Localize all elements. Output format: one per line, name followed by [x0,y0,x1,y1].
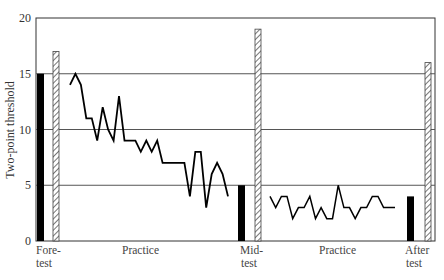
label-after-test-2: test [406,257,423,269]
hatched-bar [425,63,431,241]
practice-1-line [70,74,228,208]
label-mid-test-2: test [241,257,258,269]
label-practice-1: Practice [122,244,159,256]
label-mid-test-1: Mid- [240,244,263,256]
label-after-test-1: After [405,244,429,256]
practice-2-line [270,185,395,218]
y-tick-label: 15 [19,67,31,81]
y-tick-label: 5 [25,178,31,192]
y-axis-title: Two-point threshold [3,81,17,178]
label-fore-test-2: test [36,257,53,269]
y-tick-label: 0 [25,234,31,248]
y-axis-ticks: 05101520 [19,11,31,248]
hatched-bar [255,29,261,241]
solid-bar [37,74,44,241]
line-chart: 05101520 Two-point threshold Fore- test … [0,0,444,280]
hatched-bar [53,51,59,241]
label-fore-test-1: Fore- [36,244,61,256]
y-tick-label: 20 [19,11,31,25]
gridlines [36,74,435,186]
label-practice-2: Practice [319,244,356,256]
y-tick-label: 10 [19,123,31,137]
solid-bar [407,196,414,241]
solid-bar [238,185,245,241]
